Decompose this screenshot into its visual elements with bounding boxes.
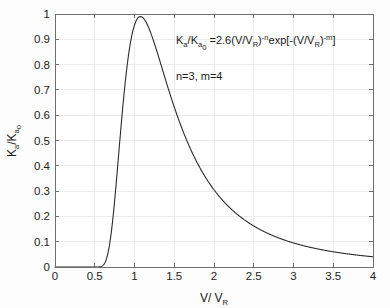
x-tick-label: 1 [131,270,137,282]
x-tick-label: 2.5 [246,270,262,282]
y-tick-label: 0.6 [34,109,50,121]
y-tick-label: 1 [44,8,50,20]
eq-sup-m: -m [324,33,333,42]
y-axis-title-k1: K [5,149,19,157]
x-tick-label: 3 [290,270,296,282]
x-axis-title-sub: R [223,298,229,307]
plot-svg: 00.511.522.533.54 00.10.20.30.40.50.60.7… [0,0,390,308]
eq-close: ] [332,34,335,46]
x-tick-labels: 00.511.522.533.54 [52,270,377,282]
y-axis-title-sub-o: o [14,125,23,129]
y-tick-label: 0.2 [34,210,50,222]
y-tick-label: 0.7 [34,84,50,96]
y-tick-label: 0 [44,261,50,273]
y-tick-label: 0.9 [34,33,50,45]
eq-slash: /K [188,34,199,46]
y-tick-label: 0.1 [34,236,50,248]
x-tick-label: 2 [211,270,217,282]
x-tick-label: 0.5 [87,270,103,282]
eq-body1: =2.6(V/V [206,34,253,46]
eq-body2: exp[-(V/V [269,34,316,46]
x-tick-label: 0 [52,270,58,282]
y-axis-title-slash: /K [5,133,19,144]
x-axis-title-main: V/ V [200,291,223,305]
y-tick-label: 0.8 [34,59,50,71]
parameters-annotation: n=3, m=4 [176,70,222,82]
x-tick-label: 4 [370,270,377,282]
y-tick-label: 0.5 [34,135,50,147]
x-tick-label: 1.5 [166,270,182,282]
chart-figure: 00.511.522.533.54 00.10.20.30.40.50.60.7… [0,0,390,308]
y-tick-label: 0.4 [34,160,51,172]
x-tick-label: 3.5 [325,270,341,282]
y-tick-label: 0.3 [34,185,50,197]
eq-sup-n: -n [262,33,269,42]
